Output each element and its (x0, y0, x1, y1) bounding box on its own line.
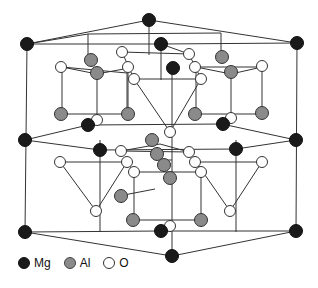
o-atom (116, 146, 127, 157)
o-atom (129, 74, 140, 85)
mg-atom (155, 38, 168, 51)
legend-item-mg: Mg (18, 256, 51, 270)
mg-atom (290, 134, 303, 147)
o-atom (257, 61, 268, 72)
mg-atom (94, 144, 107, 157)
o-atom (196, 167, 207, 178)
al-atom (195, 214, 208, 227)
mg-atom (167, 62, 180, 75)
mg-atom (155, 225, 168, 238)
al-atom-icon (64, 257, 76, 269)
o-atom (196, 74, 207, 85)
bond-line (25, 231, 161, 232)
al-atom (91, 67, 104, 80)
legend-label-al: Al (80, 256, 91, 270)
bond-line (25, 232, 172, 256)
bond-line (27, 34, 88, 44)
o-atom (123, 62, 134, 73)
al-atom (127, 214, 140, 227)
o-atom (184, 49, 195, 60)
al-atom (146, 134, 159, 147)
bond-line (88, 33, 221, 34)
legend: Mg Al O (18, 256, 142, 270)
bond-line (124, 189, 155, 195)
o-atom-icon (103, 257, 115, 269)
o-atom (225, 206, 236, 217)
al-atom (122, 108, 135, 121)
al-atom (115, 190, 128, 203)
al-atom (158, 159, 171, 172)
bond-line (88, 124, 222, 125)
mg-atom (291, 37, 304, 50)
legend-label-mg: Mg (34, 256, 51, 270)
al-atom (164, 172, 177, 185)
bond-line (25, 125, 88, 140)
mg-atom (19, 226, 32, 239)
o-atom (184, 147, 195, 158)
bond-line (122, 52, 189, 54)
o-atom (165, 127, 176, 138)
mg-atom (82, 119, 95, 132)
al-atom (189, 108, 202, 121)
bond-line (60, 162, 96, 211)
o-atom (257, 157, 268, 168)
bond-lines (25, 20, 297, 256)
bond-line (149, 20, 297, 43)
bond-line (25, 140, 100, 150)
legend-item-al: Al (64, 256, 91, 270)
mg-atom (290, 225, 303, 238)
mg-atom-icon (18, 257, 30, 269)
mg-atom (217, 118, 230, 131)
mg-atom (166, 250, 179, 263)
o-atom (122, 157, 133, 168)
bond-line (96, 162, 127, 211)
o-atom (55, 157, 66, 168)
o-atom (190, 157, 201, 168)
mg-atom (19, 134, 32, 147)
mg-atom (230, 143, 243, 156)
o-atom (117, 47, 128, 58)
bond-line (172, 231, 296, 256)
spinel-crystal-structure (0, 0, 318, 288)
mg-atom (143, 14, 156, 27)
mg-atom (21, 38, 34, 51)
o-atom (129, 167, 140, 178)
atoms (19, 14, 304, 263)
bond-line (161, 43, 297, 44)
o-atom (56, 62, 67, 73)
al-atom (225, 66, 238, 79)
bond-line (236, 140, 296, 149)
o-atom (91, 206, 102, 217)
al-atom (85, 54, 98, 67)
al-atom (256, 107, 269, 120)
legend-label-o: O (119, 256, 128, 270)
al-atom (216, 51, 229, 64)
al-atom (55, 108, 68, 121)
o-atom (190, 62, 201, 73)
bond-line (222, 124, 296, 140)
legend-item-o: O (103, 256, 128, 270)
bond-line (230, 162, 262, 211)
